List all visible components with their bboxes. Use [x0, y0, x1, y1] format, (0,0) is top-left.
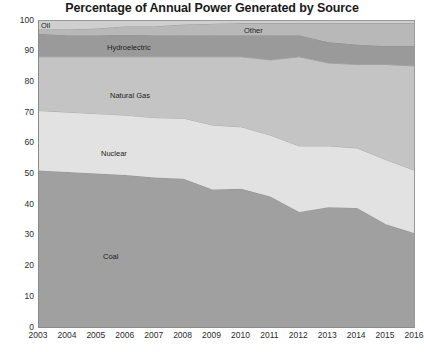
y-axis-tick-10: 10	[2, 292, 34, 301]
series-label-oil: Oil	[41, 22, 50, 30]
series-label-nuclear: Nuclear	[101, 150, 127, 158]
y-axis-tick-100: 100	[2, 16, 34, 25]
y-axis-tick-40: 40	[2, 200, 34, 209]
chart-title: Percentage of Annual Power Generated by …	[0, 1, 424, 15]
y-axis-tick-30: 30	[2, 230, 34, 239]
y-axis-tick-70: 70	[2, 108, 34, 117]
y-axis-tick-80: 80	[2, 77, 34, 86]
x-axis-line	[38, 327, 415, 328]
y-axis-tick-90: 90	[2, 46, 34, 55]
plot-border-right	[414, 20, 415, 328]
series-label-hydroelectric: Hydroelectric	[107, 44, 151, 52]
x-axis-tick-2016: 2016	[397, 330, 424, 340]
y-axis-tick-20: 20	[2, 261, 34, 270]
stacked-area-svg	[39, 20, 415, 327]
x-axis: 2003200420052006200720082009201020112012…	[0, 330, 424, 350]
y-axis-line	[38, 20, 39, 328]
plot-border-top	[38, 20, 415, 21]
series-label-natural-gas: Natural Gas	[110, 92, 150, 100]
series-label-coal: Coal	[103, 253, 118, 261]
y-axis-tick-60: 60	[2, 138, 34, 147]
chart-container: Percentage of Annual Power Generated by …	[0, 0, 424, 352]
series-label-other: Other	[244, 27, 263, 35]
plot-area	[38, 20, 415, 327]
y-axis: 0102030405060708090100	[0, 0, 34, 352]
y-axis-tick-50: 50	[2, 169, 34, 178]
